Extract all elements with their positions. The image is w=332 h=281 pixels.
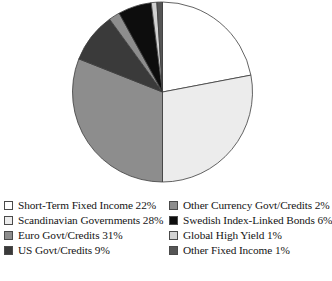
legend-swatch-scandinavian-governments — [4, 216, 13, 225]
legend-column-left: Short-Term Fixed Income 22% Scandinavian… — [0, 198, 164, 278]
legend-label-swedish-index-linked-bonds: Swedish Index-Linked Bonds 6% — [183, 214, 332, 227]
pie-slice-group — [72, 2, 252, 182]
legend-item-other-currency-govt-credits[interactable]: Other Currency Govt/Credits 2% — [169, 198, 331, 213]
legend-label-us-govt-credits: US Govt/Credits 9% — [18, 244, 110, 257]
legend-item-swedish-index-linked-bonds[interactable]: Swedish Index-Linked Bonds 6% — [169, 213, 331, 228]
legend-item-euro-govt-credits[interactable]: Euro Govt/Credits 31% — [4, 228, 164, 243]
legend-label-euro-govt-credits: Euro Govt/Credits 31% — [18, 229, 123, 242]
legend-swatch-euro-govt-credits — [4, 231, 13, 240]
legend-item-global-high-yield[interactable]: Global High Yield 1% — [169, 228, 331, 243]
legend-item-us-govt-credits[interactable]: US Govt/Credits 9% — [4, 243, 164, 258]
legend-swatch-other-currency-govt-credits — [169, 201, 178, 210]
legend-swatch-swedish-index-linked-bonds — [169, 216, 178, 225]
legend-label-scandinavian-governments: Scandinavian Governments 28% — [18, 214, 163, 227]
legend-swatch-short-term-fixed-income — [4, 201, 13, 210]
legend: Short-Term Fixed Income 22% Scandinavian… — [0, 198, 331, 278]
legend-item-short-term-fixed-income[interactable]: Short-Term Fixed Income 22% — [4, 198, 164, 213]
legend-swatch-global-high-yield — [169, 231, 178, 240]
legend-column-right: Other Currency Govt/Credits 2% Swedish I… — [164, 198, 331, 278]
chart-area — [0, 0, 331, 190]
pie-chart — [72, 1, 253, 183]
legend-label-global-high-yield: Global High Yield 1% — [183, 229, 282, 242]
legend-label-short-term-fixed-income: Short-Term Fixed Income 22% — [18, 199, 156, 212]
legend-label-other-fixed-income: Other Fixed Income 1% — [183, 244, 290, 257]
legend-item-scandinavian-governments[interactable]: Scandinavian Governments 28% — [4, 213, 164, 228]
pie-slice — [163, 75, 253, 182]
legend-swatch-other-fixed-income — [169, 246, 178, 255]
legend-swatch-us-govt-credits — [4, 246, 13, 255]
legend-item-other-fixed-income[interactable]: Other Fixed Income 1% — [169, 243, 331, 258]
legend-label-other-currency-govt-credits: Other Currency Govt/Credits 2% — [183, 199, 330, 212]
